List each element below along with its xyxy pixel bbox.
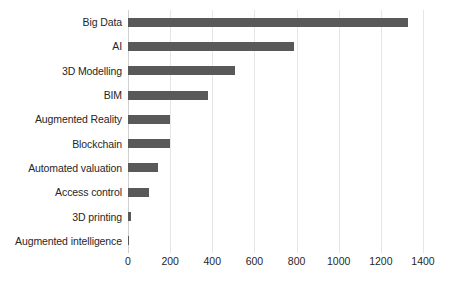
plot-area (128, 10, 423, 253)
bar[interactable] (128, 188, 149, 197)
bar[interactable] (128, 163, 158, 172)
x-tick-label: 1000 (327, 255, 350, 267)
y-axis-label: Augmented intelligence (0, 229, 122, 253)
y-axis-label: Blockchain (0, 132, 122, 156)
y-axis-label: AI (0, 34, 122, 58)
bar-row (128, 132, 423, 156)
x-tick-label: 1200 (369, 255, 392, 267)
y-axis-label: 3D printing (0, 204, 122, 228)
x-tick-label: 1400 (411, 255, 434, 267)
y-axis-label: BIM (0, 83, 122, 107)
x-tick-label: 800 (288, 255, 306, 267)
bar[interactable] (128, 66, 235, 75)
bar[interactable] (128, 139, 170, 148)
bar-row (128, 180, 423, 204)
y-axis-label: Access control (0, 180, 122, 204)
gridline-1400 (423, 10, 424, 253)
y-axis-label: Augmented Reality (0, 107, 122, 131)
bar[interactable] (128, 115, 170, 124)
x-tick-label: 400 (204, 255, 222, 267)
bar[interactable] (128, 236, 129, 245)
y-axis-category-labels: Big DataAI3D ModellingBIMAugmented Reali… (0, 10, 122, 253)
x-tick-label: 200 (161, 255, 179, 267)
x-tick-label: 0 (125, 255, 131, 267)
bar-row (128, 59, 423, 83)
y-axis-label: 3D Modelling (0, 59, 122, 83)
bar-row (128, 34, 423, 58)
x-axis-tick-labels: 0200400600800100012001400 (0, 255, 449, 277)
bar-row (128, 204, 423, 228)
bar-row (128, 10, 423, 34)
bar-chart: Big DataAI3D ModellingBIMAugmented Reali… (0, 0, 449, 287)
y-axis-label: Big Data (0, 10, 122, 34)
y-axis-label: Automated valuation (0, 156, 122, 180)
bar-row (128, 229, 423, 253)
bar-row (128, 83, 423, 107)
bar[interactable] (128, 18, 408, 27)
bar-row (128, 156, 423, 180)
bar-row (128, 107, 423, 131)
bar[interactable] (128, 91, 208, 100)
bar[interactable] (128, 212, 131, 221)
x-tick-label: 600 (246, 255, 264, 267)
bar[interactable] (128, 42, 294, 51)
